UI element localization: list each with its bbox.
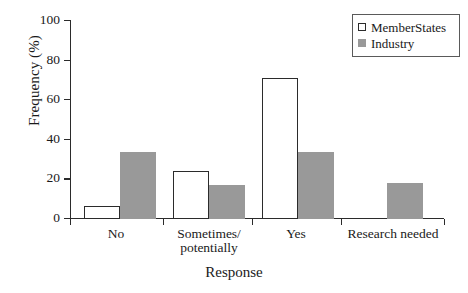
legend-item-industry: Industry	[358, 35, 454, 51]
bar-industry-sometimes	[209, 185, 245, 219]
x-tick-2	[252, 219, 253, 225]
legend-label-memberstates: MemberStates	[371, 21, 446, 34]
bar-industry-yes	[298, 152, 334, 219]
x-tick-1	[163, 219, 164, 225]
legend-item-memberstates: MemberStates	[358, 19, 454, 35]
bar-memberstates-yes	[262, 78, 298, 218]
bar-memberstates-no	[84, 206, 120, 219]
legend-label-industry: Industry	[371, 37, 414, 50]
bar-chart: Frequency (%) 0 20 40 60 80 100 No Somet…	[0, 0, 468, 293]
x-tick-label-research-needed: Research needed	[337, 227, 449, 241]
filled-square-swatch-icon	[358, 39, 366, 47]
legend: MemberStates Industry	[352, 14, 460, 57]
bar-industry-no	[120, 152, 156, 219]
bar-memberstates-sometimes	[173, 171, 209, 219]
x-tick-0	[70, 219, 71, 225]
open-square-swatch-icon	[358, 23, 366, 31]
x-tick-label-sometimes: Sometimes/ potentially	[161, 227, 257, 255]
x-axis-title: Response	[0, 264, 468, 281]
x-tick-4	[444, 219, 445, 225]
bar-industry-research-needed	[387, 183, 423, 219]
x-tick-label-no: No	[76, 227, 156, 241]
x-tick-label-yes: Yes	[258, 227, 334, 241]
x-tick-3	[341, 219, 342, 225]
